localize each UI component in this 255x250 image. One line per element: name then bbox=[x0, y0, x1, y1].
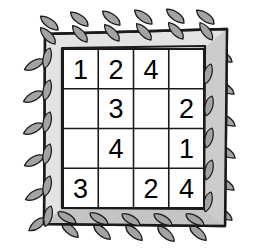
framed-number-grid-illustration: 1 2 4 3 2 4 1 3 2 4 bbox=[0, 0, 255, 250]
grid-cell-r3c4[interactable]: 1 bbox=[179, 134, 194, 164]
grid-cell-r3c2[interactable]: 4 bbox=[108, 134, 123, 164]
grid-cell-r4c3[interactable]: 2 bbox=[144, 174, 159, 204]
leaf-icon bbox=[22, 89, 45, 104]
grid-cell-r1c3[interactable]: 4 bbox=[144, 55, 159, 85]
leaf-icon bbox=[101, 7, 123, 29]
grid-cell-r2c2[interactable]: 3 bbox=[108, 94, 123, 124]
leaf-icon bbox=[22, 121, 45, 136]
grid-cell-r4c4[interactable]: 4 bbox=[179, 174, 194, 204]
leaf-icon bbox=[23, 153, 46, 168]
grid-cell-r1c1[interactable]: 1 bbox=[73, 55, 88, 85]
grid-cell-r2c4[interactable]: 2 bbox=[179, 94, 194, 124]
leaf-icon bbox=[23, 57, 46, 72]
leaf-icon bbox=[165, 5, 187, 27]
grid-cell-r1c2[interactable]: 2 bbox=[108, 55, 123, 85]
grid-cell-r4c1[interactable]: 3 bbox=[73, 174, 88, 204]
leaf-icon bbox=[69, 8, 91, 30]
illustration-canvas: 1 2 4 3 2 4 1 3 2 4 bbox=[0, 0, 255, 250]
leaf-icon bbox=[133, 6, 155, 28]
number-grid: 1 2 4 3 2 4 1 3 2 4 bbox=[63, 49, 204, 208]
